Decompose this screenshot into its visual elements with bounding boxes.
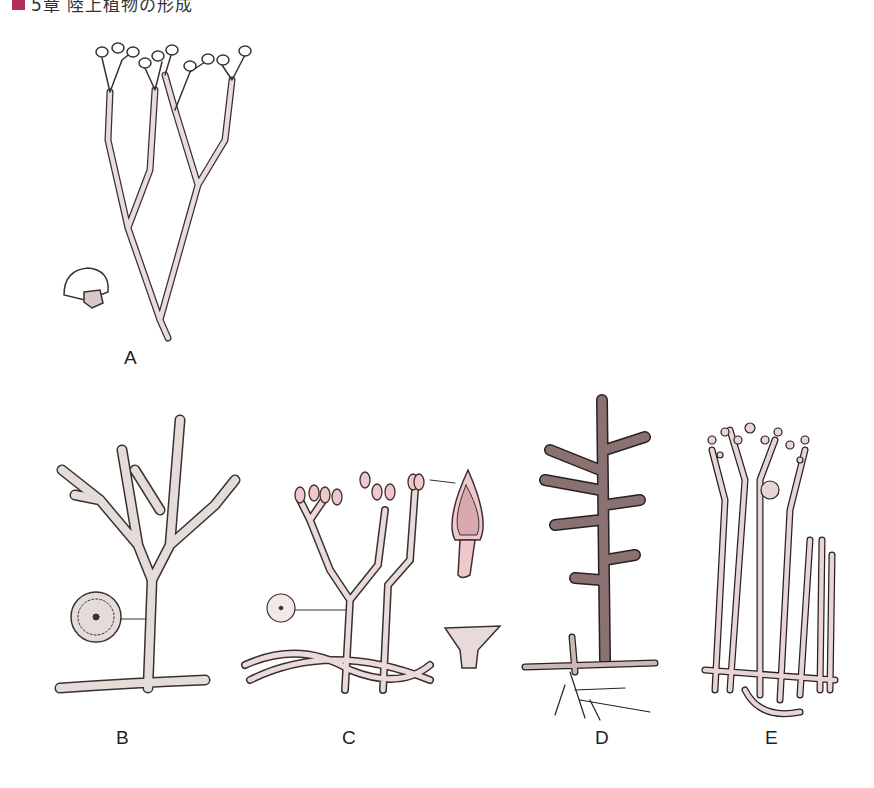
panel-e-drawing xyxy=(705,423,835,714)
panel-label-e: E xyxy=(765,727,778,749)
panel-d-drawing xyxy=(525,400,655,720)
panel-a-drawing xyxy=(64,43,251,338)
panel-label-c: C xyxy=(342,727,356,749)
panel-label-a: A xyxy=(124,347,137,369)
panel-c-drawing xyxy=(245,470,500,690)
panel-label-b: B xyxy=(116,727,129,749)
figure-illustrations xyxy=(0,0,874,788)
panel-label-d: D xyxy=(595,727,609,749)
panel-b-drawing xyxy=(60,420,235,688)
